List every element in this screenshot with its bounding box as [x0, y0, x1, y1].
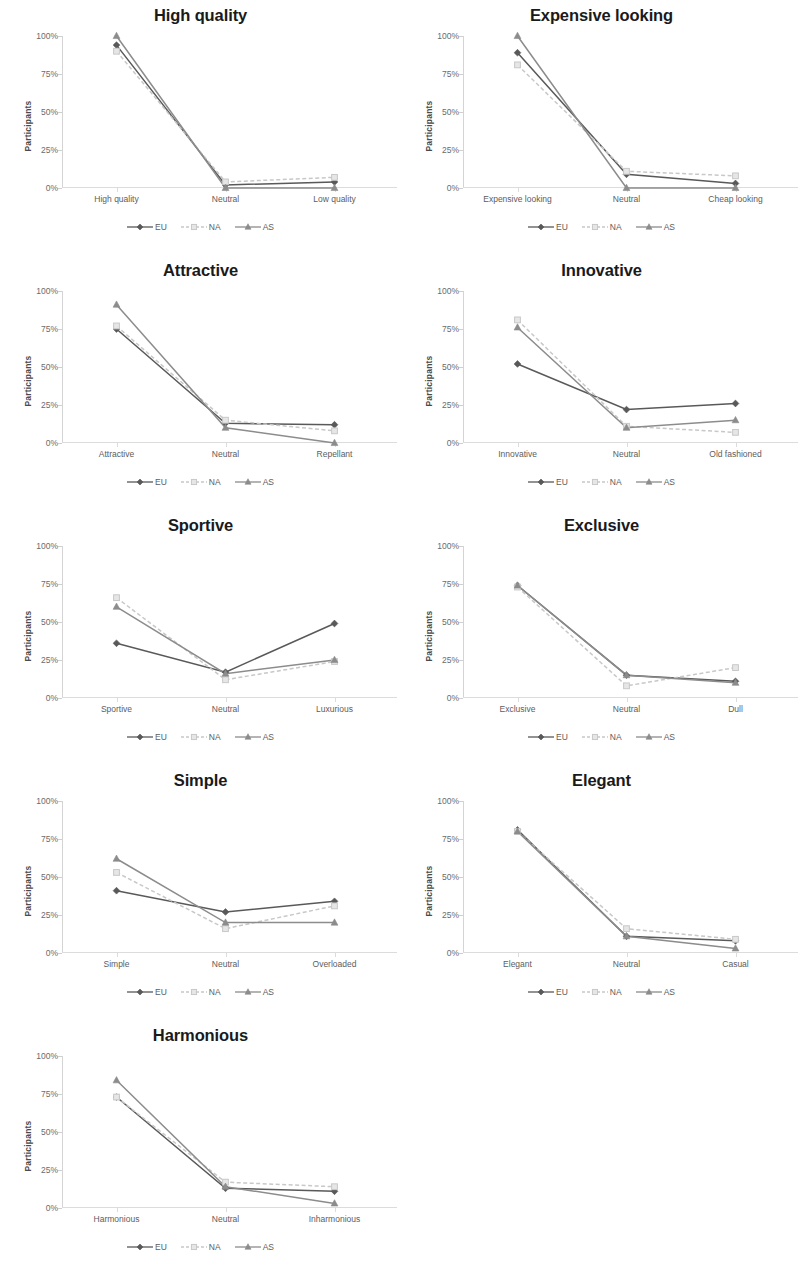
- series-svg: [62, 291, 389, 443]
- y-axis-tick-label: 50%: [417, 617, 459, 627]
- legend-item-AS[interactable]: AS: [636, 732, 675, 742]
- marker-triangle: [514, 32, 521, 38]
- legend-item-EU[interactable]: EU: [528, 222, 568, 232]
- x-axis-tick-label: Exclusive: [500, 704, 536, 714]
- legend-item-AS[interactable]: AS: [235, 222, 274, 232]
- legend-label: EU: [155, 988, 167, 997]
- legend-item-NA[interactable]: NA: [582, 987, 622, 997]
- legend-item-NA[interactable]: NA: [181, 222, 221, 232]
- chart-legend: EU NA AS: [0, 222, 401, 232]
- marker-triangle: [113, 855, 120, 861]
- plot-area-wrapper: Participants 0%25%50%75%100% HarmoniousN…: [0, 1048, 401, 1243]
- y-axis-tick-label: 50%: [16, 362, 58, 372]
- legend-item-NA[interactable]: NA: [181, 732, 221, 742]
- x-axis-tick-mark: [117, 188, 118, 192]
- legend-item-EU[interactable]: EU: [528, 477, 568, 487]
- chart-legend: EU NA AS: [401, 477, 802, 487]
- legend-label: AS: [664, 223, 675, 232]
- chart-legend: EU NA AS: [401, 222, 802, 232]
- marker-square: [191, 989, 196, 994]
- legend-item-AS[interactable]: AS: [235, 987, 274, 997]
- chart-legend: EU NA AS: [401, 987, 802, 997]
- legend-item-EU[interactable]: EU: [528, 732, 568, 742]
- series-line-EU: [117, 329, 335, 425]
- y-axis-tick-labels: 0%25%50%75%100%: [14, 28, 58, 223]
- x-axis-tick-label: Neutral: [212, 449, 239, 459]
- plot-area: [62, 801, 389, 953]
- marker-diamond: [623, 406, 630, 413]
- y-axis-tick-label: 50%: [417, 872, 459, 882]
- marker-triangle: [113, 603, 120, 609]
- legend-item-EU[interactable]: EU: [127, 987, 167, 997]
- series-svg: [62, 801, 389, 953]
- y-axis-tick-labels: 0%25%50%75%100%: [14, 793, 58, 988]
- legend-item-EU[interactable]: EU: [127, 477, 167, 487]
- legend-item-NA[interactable]: NA: [181, 1242, 221, 1252]
- y-axis-tick-labels: 0%25%50%75%100%: [14, 1048, 58, 1243]
- y-axis-tick-label: 25%: [417, 400, 459, 410]
- legend-item-EU[interactable]: EU: [528, 987, 568, 997]
- x-axis-tick-label: High quality: [94, 194, 138, 204]
- x-axis-tick-label: Neutral: [212, 1214, 239, 1224]
- y-axis-tick-label: 50%: [417, 362, 459, 372]
- marker-square: [191, 224, 196, 229]
- marker-square: [332, 903, 338, 909]
- marker-square: [733, 173, 739, 179]
- y-axis-tick-label: 50%: [417, 107, 459, 117]
- y-axis-tick-label: 25%: [417, 655, 459, 665]
- legend-item-AS[interactable]: AS: [636, 477, 675, 487]
- marker-triangle: [113, 301, 120, 307]
- plot-area-wrapper: Participants 0%25%50%75%100% AttractiveN…: [0, 283, 401, 478]
- marker-diamond: [331, 620, 338, 627]
- y-axis-tick-label: 75%: [417, 324, 459, 334]
- x-axis-tick-label: Dull: [728, 704, 743, 714]
- chart-title: Harmonious: [0, 1026, 401, 1045]
- legend-item-AS[interactable]: AS: [235, 477, 274, 487]
- marker-square: [515, 317, 521, 323]
- x-axis-tick-mark: [736, 698, 737, 702]
- legend-item-NA[interactable]: NA: [181, 477, 221, 487]
- y-axis-tick-label: 25%: [417, 910, 459, 920]
- legend-item-NA[interactable]: NA: [582, 222, 622, 232]
- y-axis-tick-labels: 0%25%50%75%100%: [14, 538, 58, 733]
- marker-square: [332, 428, 338, 434]
- plot-area-wrapper: Participants 0%25%50%75%100% ElegantNeut…: [401, 793, 802, 988]
- chart-legend: EU NA AS: [0, 1242, 401, 1252]
- x-axis-tick-label: Innovative: [498, 449, 537, 459]
- y-axis-tick-label: 100%: [16, 286, 58, 296]
- legend-item-NA[interactable]: NA: [181, 987, 221, 997]
- legend-label: NA: [209, 733, 221, 742]
- x-axis-tick-label: Cheap looking: [708, 194, 762, 204]
- marker-diamond: [137, 224, 143, 230]
- y-axis-tick-label: 0%: [417, 438, 459, 448]
- y-axis-tick-label: 75%: [16, 1089, 58, 1099]
- legend-item-EU[interactable]: EU: [127, 1242, 167, 1252]
- legend-item-EU[interactable]: EU: [127, 222, 167, 232]
- legend-item-AS[interactable]: AS: [235, 1242, 274, 1252]
- legend-item-EU[interactable]: EU: [127, 732, 167, 742]
- legend-item-AS[interactable]: AS: [636, 987, 675, 997]
- chart-panel: Attractive Participants 0%25%50%75%100% …: [0, 255, 401, 510]
- series-svg: [62, 1056, 389, 1208]
- legend-item-NA[interactable]: NA: [582, 477, 622, 487]
- y-axis-tick-label: 25%: [417, 145, 459, 155]
- y-axis-tick-label: 0%: [16, 1203, 58, 1213]
- legend-label: NA: [610, 223, 622, 232]
- legend-item-NA[interactable]: NA: [582, 732, 622, 742]
- plot-area: [62, 1056, 389, 1208]
- chart-title: Sportive: [0, 516, 401, 535]
- legend-label: NA: [209, 478, 221, 487]
- y-axis-tick-label: 0%: [16, 183, 58, 193]
- x-axis-tick-label: Sportive: [101, 704, 132, 714]
- legend-item-AS[interactable]: AS: [636, 222, 675, 232]
- marker-square: [114, 48, 120, 54]
- y-axis-tick-labels: 0%25%50%75%100%: [415, 283, 459, 478]
- series-line-AS: [117, 607, 335, 674]
- x-axis-tick-label: Neutral: [212, 959, 239, 969]
- x-axis-tick-label: Neutral: [212, 194, 239, 204]
- legend-item-AS[interactable]: AS: [235, 732, 274, 742]
- y-axis-tick-label: 100%: [16, 541, 58, 551]
- series-line-NA: [117, 1097, 335, 1187]
- y-axis-tick-mark: [58, 188, 62, 189]
- series-svg: [463, 291, 790, 443]
